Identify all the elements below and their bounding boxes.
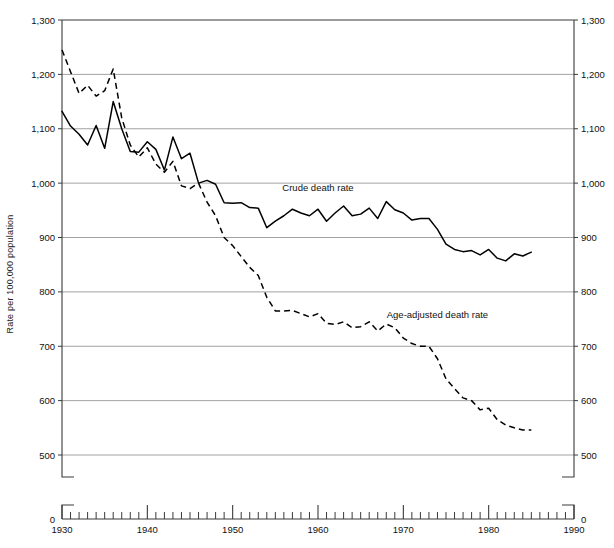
x-tick-label-1960: 1960 [307,524,328,535]
y-tick-label-left-900: 900 [39,232,55,243]
y-tick-label-right-700: 700 [581,341,597,352]
y-tick-label-left-1200: 1,200 [31,69,55,80]
x-tick-label-1950: 1950 [222,524,243,535]
y-tick-label-left-1100: 1,100 [31,123,55,134]
x-tick-label-1990: 1990 [563,524,584,535]
y-tick-label-left-800: 800 [39,286,55,297]
y-tick-label-right-1100: 1,100 [581,123,605,134]
y-tick-label-left-500: 500 [39,450,55,461]
chart-plot-area: 5005006006007007008008009009001,0001,000… [0,0,614,548]
series-label-crude-death-rate: Crude death rate [282,182,353,193]
y-tick-label-right-1300: 1,300 [581,15,605,26]
y-axis-break-right [562,455,574,477]
series-line-crude-death-rate [62,102,531,261]
y-tick-label-right-900: 900 [581,232,597,243]
y-tick-label-right-600: 600 [581,395,597,406]
y-axis-break-left [62,455,74,477]
y-tick-label-right-1200: 1,200 [581,69,605,80]
y-tick-label-left-700: 700 [39,341,55,352]
x-tick-label-1970: 1970 [393,524,414,535]
y-tick-label-right-1000: 1,000 [581,178,605,189]
y-tick-label-right-800: 800 [581,286,597,297]
series-label-age-adjusted-death-rate: Age-adjusted death rate [387,309,488,320]
y-tick-label-right-500: 500 [581,450,597,461]
x-tick-label-1930: 1930 [51,524,72,535]
y-tick-label-left-1300: 1,300 [31,15,55,26]
x-tick-label-1980: 1980 [478,524,499,535]
y-tick-label-left-1000: 1,000 [31,178,55,189]
chart-container: Rate per 100,000 population 500500600600… [0,0,614,548]
series-line-age-adjusted-death-rate [62,50,531,430]
x-axis-zero-label-right: 0 [581,514,586,525]
x-axis-break-right [562,505,574,519]
x-axis-zero-label-left: 0 [50,514,55,525]
x-axis-break-left [62,505,74,519]
y-tick-label-left-600: 600 [39,395,55,406]
x-tick-label-1940: 1940 [137,524,158,535]
